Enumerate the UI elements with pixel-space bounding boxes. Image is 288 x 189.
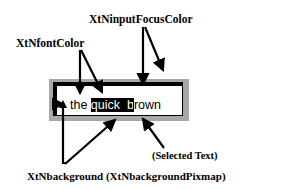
text-unselected: the: [70, 98, 91, 112]
arrow-focus-border: [145, 27, 163, 70]
arrow-background-selection: [65, 120, 115, 164]
background-label: XtNbackground (XtNbackgroundPixmap): [27, 170, 226, 182]
arrow-selected-text: [143, 119, 164, 148]
text-unselected-after: rown: [134, 98, 161, 112]
selected-text: quick b: [91, 98, 134, 112]
font-color-label: XtNfontColor: [16, 37, 84, 49]
input-focus-color-label: XtNinputFocusColor: [89, 13, 193, 25]
selected-text-label: (Selected Text): [152, 150, 218, 161]
text-field-content: the quick brown: [70, 98, 161, 113]
